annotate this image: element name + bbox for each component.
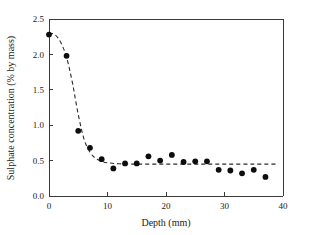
- y-axis-title: Sulphate concentration (% by mass): [5, 36, 17, 180]
- data-point: [146, 153, 152, 159]
- fitted-decay-curve: [49, 33, 277, 164]
- figure-container: 010203040 0.00.51.01.52.02.5 Depth (mm) …: [0, 0, 317, 235]
- y-tick-label-1.5: 1.5: [33, 85, 45, 95]
- y-tick-label-0.5: 0.5: [33, 156, 45, 166]
- sulphate-concentration-chart: 010203040 0.00.51.01.52.02.5 Depth (mm) …: [0, 0, 317, 235]
- data-point: [169, 152, 175, 158]
- data-point: [134, 161, 140, 167]
- x-tick-label-40: 40: [279, 201, 289, 211]
- data-point: [216, 167, 222, 173]
- data-point: [64, 53, 70, 59]
- y-tick-label-2.5: 2.5: [33, 14, 45, 24]
- plot-frame: [49, 19, 283, 196]
- data-point: [251, 167, 257, 173]
- data-point: [87, 145, 93, 151]
- x-tick-label-0: 0: [47, 201, 52, 211]
- data-point: [227, 168, 233, 174]
- data-point: [239, 170, 245, 176]
- data-point: [181, 159, 187, 165]
- x-axis-title: Depth (mm): [141, 217, 190, 229]
- y-tick-label-1.0: 1.0: [33, 120, 45, 130]
- data-point: [99, 156, 105, 162]
- y-tick-label-0.0: 0.0: [33, 191, 45, 201]
- x-tick-label-20: 20: [162, 201, 172, 211]
- data-point: [110, 165, 116, 171]
- data-point-series: [46, 32, 268, 180]
- data-point: [192, 158, 198, 164]
- x-tick-label-10: 10: [103, 201, 113, 211]
- data-point: [204, 158, 210, 164]
- data-point: [46, 32, 52, 38]
- data-point: [157, 158, 163, 164]
- x-axis-ticks: 010203040: [47, 192, 288, 211]
- y-tick-label-2.0: 2.0: [33, 50, 45, 60]
- y-axis-ticks: 0.00.51.01.52.02.5: [33, 14, 53, 201]
- data-point: [122, 161, 128, 167]
- data-point: [263, 174, 269, 180]
- x-tick-label-30: 30: [220, 201, 230, 211]
- data-point: [75, 128, 81, 134]
